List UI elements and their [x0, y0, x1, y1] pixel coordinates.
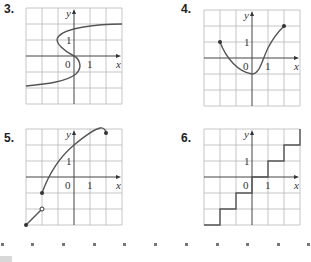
- graph-exercise-5: y x 0 1 1: [26, 129, 122, 225]
- y-tick-label: 1: [244, 36, 250, 48]
- exercise-number-4: 4.: [181, 2, 191, 16]
- graph-exercise-4: y x 0 1 1: [204, 10, 300, 106]
- x-label: x: [115, 58, 121, 70]
- closed-endpoint: [104, 131, 108, 135]
- separator-dot: [154, 243, 157, 246]
- y-tick-label: 1: [66, 34, 72, 46]
- separator-dot: [93, 243, 96, 246]
- y-label: y: [243, 9, 249, 21]
- y-label: y: [65, 128, 71, 140]
- x-label: x: [293, 60, 299, 72]
- x-tick-label: 1: [87, 179, 93, 191]
- graph-exercise-3: y x 0 1 1: [26, 8, 122, 104]
- separator-dot: [185, 243, 188, 246]
- open-endpoint: [40, 207, 44, 211]
- y-label: y: [65, 7, 71, 19]
- y-arrow-icon: [72, 130, 76, 135]
- y-label: y: [243, 128, 249, 140]
- origin-label: 0: [243, 60, 249, 72]
- y-arrow-icon: [72, 9, 76, 14]
- separator-dot: [277, 243, 280, 246]
- separator-dot: [123, 243, 126, 246]
- y-tick-label: 1: [66, 155, 72, 167]
- y-arrow-icon: [250, 130, 254, 135]
- closed-endpoint: [218, 40, 222, 44]
- x-label: x: [293, 179, 299, 191]
- x-tick-label: 1: [265, 179, 271, 191]
- exercise-number-3: 3.: [4, 2, 14, 16]
- graph-exercise-6: y x 0 1 1: [204, 129, 300, 225]
- separator-dot: [307, 243, 310, 246]
- x-tick-label: 1: [87, 58, 93, 70]
- origin-label: 0: [65, 58, 71, 70]
- y-tick-label: 1: [244, 155, 250, 167]
- origin-label: 0: [65, 179, 71, 191]
- page-edge-mark: [0, 256, 12, 262]
- separator-dot: [246, 243, 249, 246]
- separator-dot: [62, 243, 65, 246]
- closed-endpoint: [40, 191, 44, 195]
- exercise-number-6: 6.: [181, 131, 191, 145]
- separator-dot: [216, 243, 219, 246]
- dotted-separator: [0, 242, 311, 248]
- closed-endpoint: [282, 24, 286, 28]
- separator-dot: [1, 243, 4, 246]
- origin-label: 0: [243, 179, 249, 191]
- x-label: x: [115, 179, 121, 191]
- line-segment: [26, 209, 42, 225]
- exercise-number-5: 5.: [4, 131, 14, 145]
- closed-endpoint: [24, 223, 28, 227]
- separator-dot: [31, 243, 34, 246]
- x-tick-label: 1: [265, 60, 271, 72]
- y-arrow-icon: [250, 11, 254, 16]
